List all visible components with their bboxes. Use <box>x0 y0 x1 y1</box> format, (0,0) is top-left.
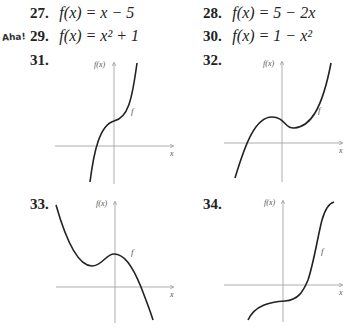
graph-32: f(x) x f <box>224 59 343 182</box>
function-curve <box>248 202 334 320</box>
y-axis-label: f(x) <box>94 60 105 69</box>
graph-33: f(x) x f <box>56 199 174 323</box>
curve-label: f <box>131 247 135 257</box>
graph-31: f(x) x f <box>55 60 174 184</box>
function-curve <box>90 63 137 182</box>
curve-label: f <box>321 246 325 256</box>
y-axis-label: f(x) <box>263 59 274 68</box>
function-curve <box>235 63 331 178</box>
x-axis-label: x <box>338 146 343 155</box>
y-axis-label: f(x) <box>264 198 275 207</box>
x-axis-label: x <box>338 288 343 297</box>
curve-label: f <box>131 106 135 116</box>
x-axis-label: x <box>169 290 174 299</box>
x-axis-label: x <box>169 149 174 158</box>
y-axis-label: f(x) <box>96 199 107 208</box>
function-curve <box>56 205 153 320</box>
graph-34: f(x) x f <box>224 198 343 322</box>
graphs-canvas: f(x) x f f(x) x f f(x) x f f(x) x f <box>0 0 349 328</box>
